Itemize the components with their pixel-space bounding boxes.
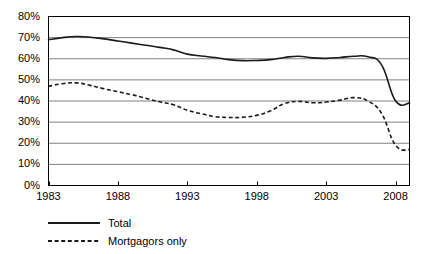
series-line-total (49, 37, 410, 106)
x-axis-tick-label: 1993 (165, 191, 209, 202)
legend-label-total: Total (108, 218, 131, 229)
y-axis-tick-label: 70% (0, 32, 40, 43)
y-axis-tick-label: 0% (0, 180, 40, 191)
x-axis-ticks (50, 182, 397, 186)
x-axis-tick-label: 1988 (96, 191, 140, 202)
legend-label-mortgagors-only: Mortgagors only (108, 236, 187, 247)
legend-item-total: Total (46, 214, 187, 232)
y-axis-tick-label: 60% (0, 53, 40, 64)
dashed-line-key (46, 236, 102, 246)
x-axis-tick-label: 1983 (27, 191, 71, 202)
line-chart: 0%10%20%30%40%50%60%70%80% 1983198819931… (0, 0, 424, 254)
legend-item-mortgagors-only: Mortgagors only (46, 232, 187, 250)
y-axis-tick-label: 50% (0, 74, 40, 85)
series-line-mortgagors-only (49, 83, 410, 150)
y-axis-tick-label: 20% (0, 137, 40, 148)
y-axis-tick-label: 30% (0, 116, 40, 127)
y-axis-tick-label: 80% (0, 11, 40, 22)
y-axis-tick-label: 40% (0, 95, 40, 106)
x-axis-tick-label: 1998 (235, 191, 279, 202)
legend: Total Mortgagors only (46, 214, 187, 250)
y-axis-tick-label: 10% (0, 158, 40, 169)
x-axis-tick-label: 2008 (374, 191, 418, 202)
x-axis-tick-label: 2003 (304, 191, 348, 202)
solid-line-key (46, 218, 102, 228)
